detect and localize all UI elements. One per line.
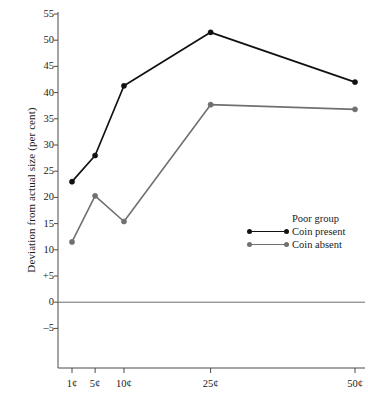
legend-title: Poor group [292,212,368,225]
data-point-coin-present [93,153,98,158]
data-point-coin-absent [352,107,357,112]
series-line-coin-present [72,32,355,181]
legend-item-coin-present: Coin present [248,225,368,238]
data-point-coin-present [208,30,213,35]
chart-figure: Deviation from actual size (per cent) 55… [0,0,368,402]
data-point-coin-absent [93,193,98,198]
legend-line-swatch-coin-present [248,231,288,232]
data-point-coin-absent [69,239,74,244]
data-point-coin-absent [208,102,213,107]
data-point-coin-absent [121,219,126,224]
chart-legend: Poor group Coin present Coin absent [248,212,368,251]
data-point-coin-present [69,179,74,184]
legend-item-coin-absent: Coin absent [248,238,368,251]
data-point-coin-present [352,80,357,85]
legend-line-swatch-coin-absent [248,244,288,245]
data-point-coin-present [121,83,126,88]
legend-label-coin-absent: Coin absent [292,238,342,251]
legend-label-coin-present: Coin present [292,225,345,238]
plot-area [0,0,368,402]
